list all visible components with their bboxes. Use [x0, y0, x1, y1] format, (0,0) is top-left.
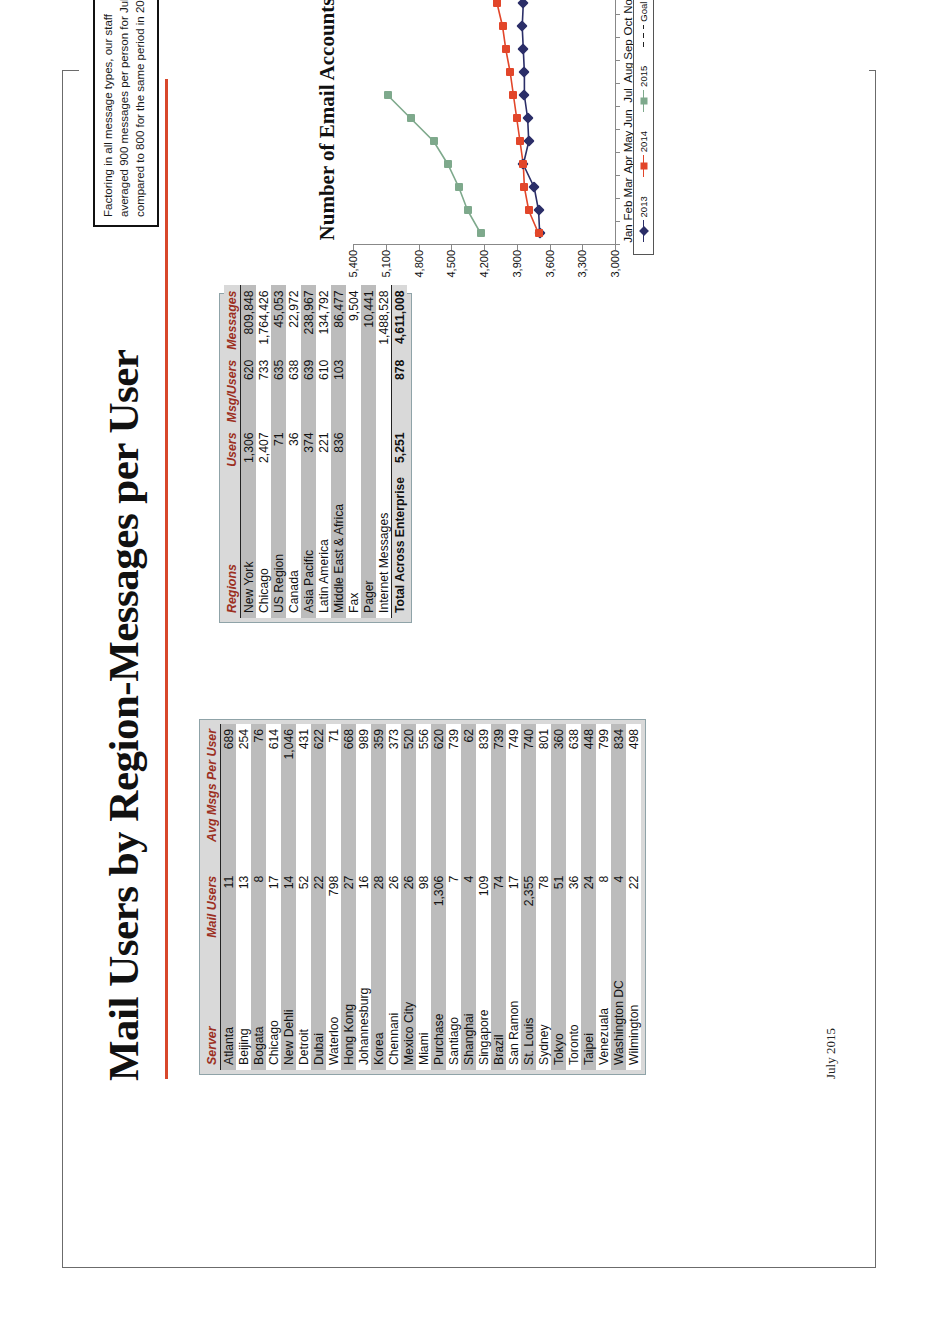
- cell-avg-msgs: 801: [536, 724, 551, 871]
- chart-data-point: [506, 69, 514, 77]
- cell-region: US Region: [271, 472, 286, 618]
- chart-series-lines: [353, 0, 615, 245]
- cell-region: Chicago: [256, 472, 271, 618]
- table-row: Wilmington22498: [626, 724, 641, 1070]
- legend-item[interactable]: Goal: [638, 2, 649, 47]
- cell-server: Beijing: [236, 957, 251, 1070]
- chart-data-point: [535, 230, 543, 238]
- cell-users: 2,407: [256, 427, 271, 471]
- cell-server: Mexico City: [401, 957, 416, 1070]
- legend-item[interactable]: 2013: [638, 196, 649, 242]
- cell-server: Toronto: [566, 957, 581, 1070]
- cell-messages: 10,441: [361, 285, 376, 354]
- cell-mail-users: 78: [536, 871, 551, 957]
- cell-server: Korea: [371, 957, 386, 1070]
- table-row: Waterloo79871: [326, 724, 341, 1070]
- cell-mail-users: 4: [461, 871, 476, 957]
- cell-mail-users: 17: [506, 871, 521, 957]
- chart-data-point: [516, 138, 524, 146]
- table-row: Fax9,504: [346, 285, 361, 618]
- cell-region: Internet Messages: [376, 472, 392, 618]
- cell-mail-users: 7: [446, 871, 461, 957]
- cell-server: Tokyo: [551, 957, 566, 1070]
- table-row: Pager10,441: [361, 285, 376, 618]
- x-axis-tick: [615, 175, 620, 176]
- y-axis-tick-label: 5,400: [347, 250, 359, 296]
- table-row: Johannesburg16989: [356, 724, 371, 1070]
- legend-item[interactable]: 2014: [638, 131, 649, 177]
- cell-msg-users: 733: [256, 355, 271, 428]
- cell-avg-msgs: 556: [416, 724, 431, 871]
- cell-users: [361, 427, 376, 471]
- legend-label: 2015: [638, 66, 649, 87]
- cell-msg-users: 635: [271, 355, 286, 428]
- cell-avg-msgs: 739: [446, 724, 461, 871]
- table-row: Toronto36638: [566, 724, 581, 1070]
- chart-data-point: [384, 92, 392, 100]
- chart-data-point: [509, 92, 517, 100]
- x-axis-tick: [615, 198, 620, 199]
- table-row: New York1,306620809,848: [241, 285, 257, 618]
- y-axis-tick-label: 4,800: [413, 250, 425, 296]
- cell-server: Johannesburg: [356, 957, 371, 1070]
- x-axis-tick: [615, 129, 620, 130]
- cell-users: [376, 427, 392, 471]
- cell-avg-msgs: 740: [521, 724, 536, 871]
- table-row: Canada3663822,972: [286, 285, 301, 618]
- chart-data-point: [499, 23, 507, 31]
- cell-avg-msgs: 76: [251, 724, 266, 871]
- cell-server: Hong Kong: [341, 957, 356, 1070]
- table-row: Shanghai462: [461, 724, 476, 1070]
- cell-total-users: 5,251: [392, 427, 408, 471]
- x-axis-tick: [615, 152, 620, 153]
- x-axis-tick: [615, 221, 620, 222]
- cell-users: 1,306: [241, 427, 257, 471]
- cell-server: Chicago: [266, 957, 281, 1070]
- cell-messages: 238,967: [301, 285, 316, 354]
- cell-total-msg-users: 878: [392, 355, 408, 428]
- cell-server: St. Louis: [521, 957, 536, 1070]
- cell-server: Taipei: [581, 957, 596, 1070]
- y-axis-tick-label: 5,100: [380, 250, 392, 296]
- cell-mail-users: 24: [581, 871, 596, 957]
- cell-region: New York: [241, 472, 257, 618]
- cell-server: Atlanta: [221, 957, 237, 1070]
- cell-users: 836: [331, 427, 346, 471]
- chart-data-point: [493, 0, 501, 8]
- cell-avg-msgs: 1,046: [281, 724, 296, 871]
- cell-msg-users: 610: [316, 355, 331, 428]
- cell-mail-users: 74: [491, 871, 506, 957]
- cell-server: Brazil: [491, 957, 506, 1070]
- cell-msg-users: 638: [286, 355, 301, 428]
- chart-data-point: [513, 115, 521, 123]
- x-axis-tick: [615, 244, 620, 245]
- cell-avg-msgs: 799: [596, 724, 611, 871]
- cell-mail-users: 22: [626, 871, 641, 957]
- cell-msg-users: [346, 355, 361, 428]
- chart-legend: 201320142015Goal: [633, 0, 654, 255]
- chart-data-point: [520, 184, 528, 192]
- cell-mail-users: 22: [311, 871, 326, 957]
- cell-avg-msgs: 638: [566, 724, 581, 871]
- cell-mail-users: 109: [476, 871, 491, 957]
- email-accounts-chart: Number of Email Accounts 3,0003,3003,600…: [315, 0, 735, 289]
- legend-swatch-icon: [643, 25, 645, 47]
- cell-mail-users: 27: [341, 871, 356, 957]
- cell-users: 36: [286, 427, 301, 471]
- cell-region: Middle East & Africa: [331, 472, 346, 618]
- regions-table-header-row: Regions Users Msg/Users Messages: [224, 285, 241, 618]
- legend-swatch-icon: [643, 155, 645, 177]
- table-row: Chicago2,4077331,764,426: [256, 285, 271, 618]
- y-axis-tick-label: 3,300: [576, 250, 588, 296]
- y-axis-tick-label: 4,200: [478, 250, 490, 296]
- cell-messages: 134,792: [316, 285, 331, 354]
- cell-mail-users: 51: [551, 871, 566, 957]
- table-row: Latin America221610134,792: [316, 285, 331, 618]
- legend-item[interactable]: 2015: [638, 66, 649, 112]
- legend-label: 2013: [638, 196, 649, 217]
- cell-avg-msgs: 689: [221, 724, 237, 871]
- cell-region: Latin America: [316, 472, 331, 618]
- table-total-row: Total Across Enterprise5,2518784,611,008: [392, 285, 408, 618]
- cell-avg-msgs: 839: [476, 724, 491, 871]
- chart-data-point: [502, 46, 510, 54]
